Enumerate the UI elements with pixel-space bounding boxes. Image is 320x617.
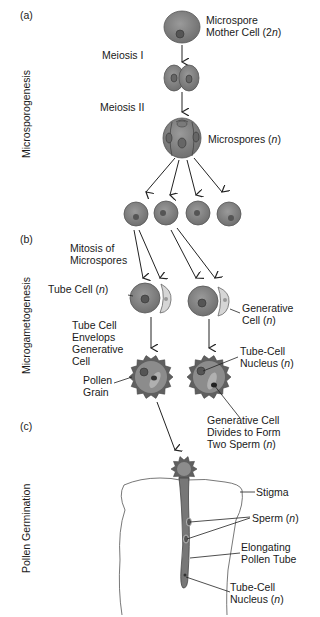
pollen-cytoplasm bbox=[177, 462, 191, 476]
label-tube-cell: Tube Cell (n) bbox=[48, 283, 108, 295]
tube-generative-pair-left bbox=[130, 283, 171, 313]
tube-cell-nucleus bbox=[140, 368, 148, 376]
leader-generative-cell bbox=[230, 309, 240, 313]
section-c-label: (c) bbox=[20, 420, 32, 432]
pollen-cytoplasm bbox=[135, 361, 167, 393]
side-label-microgametogenesis: Microgametogenesis bbox=[20, 277, 32, 374]
microspore-tetrad bbox=[163, 118, 201, 158]
label-generative-cell: Generative Cell (n) bbox=[242, 302, 293, 326]
label-pollen-grain: Pollen Grain bbox=[83, 374, 112, 398]
label-sperm: Sperm (n) bbox=[252, 512, 299, 524]
label-meiosis-2: Meiosis II bbox=[100, 101, 144, 113]
generative-nucleus bbox=[151, 376, 157, 381]
dyad-cells bbox=[164, 65, 199, 91]
side-label-microsporogenesis: Microsporogenesis bbox=[20, 70, 32, 158]
arrows-mitosis bbox=[134, 228, 215, 278]
pollen-tube bbox=[179, 478, 189, 588]
label-mother-cell: Microspore Mother Cell (2n) bbox=[206, 14, 281, 38]
microspores-row bbox=[124, 201, 241, 226]
leader-tube-cell-nucleus-2 bbox=[186, 577, 230, 592]
arrow-to-stigma bbox=[157, 402, 175, 450]
leader-elongating bbox=[190, 553, 240, 558]
tube-cell-nucleus-in-tube bbox=[184, 574, 187, 577]
label-envelops: Tube Cell Envelops Generative Cell bbox=[72, 319, 123, 367]
label-tube-cell-nucleus: Tube-Cell Nucleus (n) bbox=[240, 345, 294, 369]
label-stigma: Stigma bbox=[256, 486, 289, 498]
side-label-pollen-germination: Pollen Germination bbox=[20, 484, 32, 573]
microspore-mother-cell bbox=[164, 11, 200, 43]
leader-pollen-grain bbox=[114, 377, 132, 383]
label-tube-cell-nucleus-2: Tube-Cell Nucleus (n) bbox=[230, 581, 284, 605]
section-a-label: (a) bbox=[20, 9, 33, 21]
pollen-grain-left bbox=[129, 356, 173, 399]
section-b-label: (b) bbox=[20, 233, 33, 245]
label-mitosis: Mitosis of Microspores bbox=[70, 242, 127, 266]
arrows-to-microspores bbox=[146, 158, 222, 195]
label-meiosis-1: Meiosis I bbox=[102, 49, 143, 61]
label-elongating-tube: Elongating Pollen Tube bbox=[241, 541, 296, 565]
label-microspores: Microspores (n) bbox=[208, 133, 281, 145]
tube-generative-pair-right bbox=[188, 286, 229, 316]
label-generative-divides: Generative Cell Divides to Form Two Sper… bbox=[207, 414, 281, 450]
